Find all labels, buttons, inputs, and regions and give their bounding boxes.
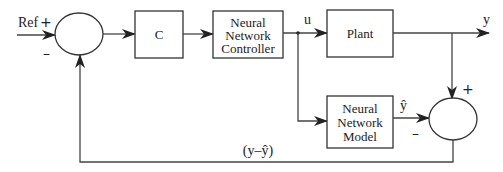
nn-model-line2: Network (337, 115, 383, 130)
summing-junction-2 (429, 98, 477, 140)
ref-label: Ref (18, 15, 39, 30)
control-loop-diagram: Ref + – C Neural Network Controller u Pl… (0, 0, 503, 172)
ref-plus-sign: + (40, 14, 52, 30)
yhat-label: ŷ (400, 98, 407, 113)
sum1-minus-sign: – (43, 45, 50, 61)
nn-model-line3: Model (343, 129, 377, 144)
u-label: u (304, 12, 311, 27)
y-label: y (483, 12, 490, 27)
sum2-minus-sign: – (412, 125, 419, 141)
u-to-nn-model-arrow (298, 33, 327, 121)
sum2-plus-sign: + (462, 81, 474, 97)
plant-label: Plant (347, 26, 374, 41)
nn-model-line1: Neural (342, 101, 378, 116)
nn-controller-line3: Controller (221, 41, 275, 56)
summing-junction-1 (55, 13, 103, 55)
controller-c-label: C (155, 27, 164, 42)
error-label: (y–ŷ) (243, 143, 274, 159)
